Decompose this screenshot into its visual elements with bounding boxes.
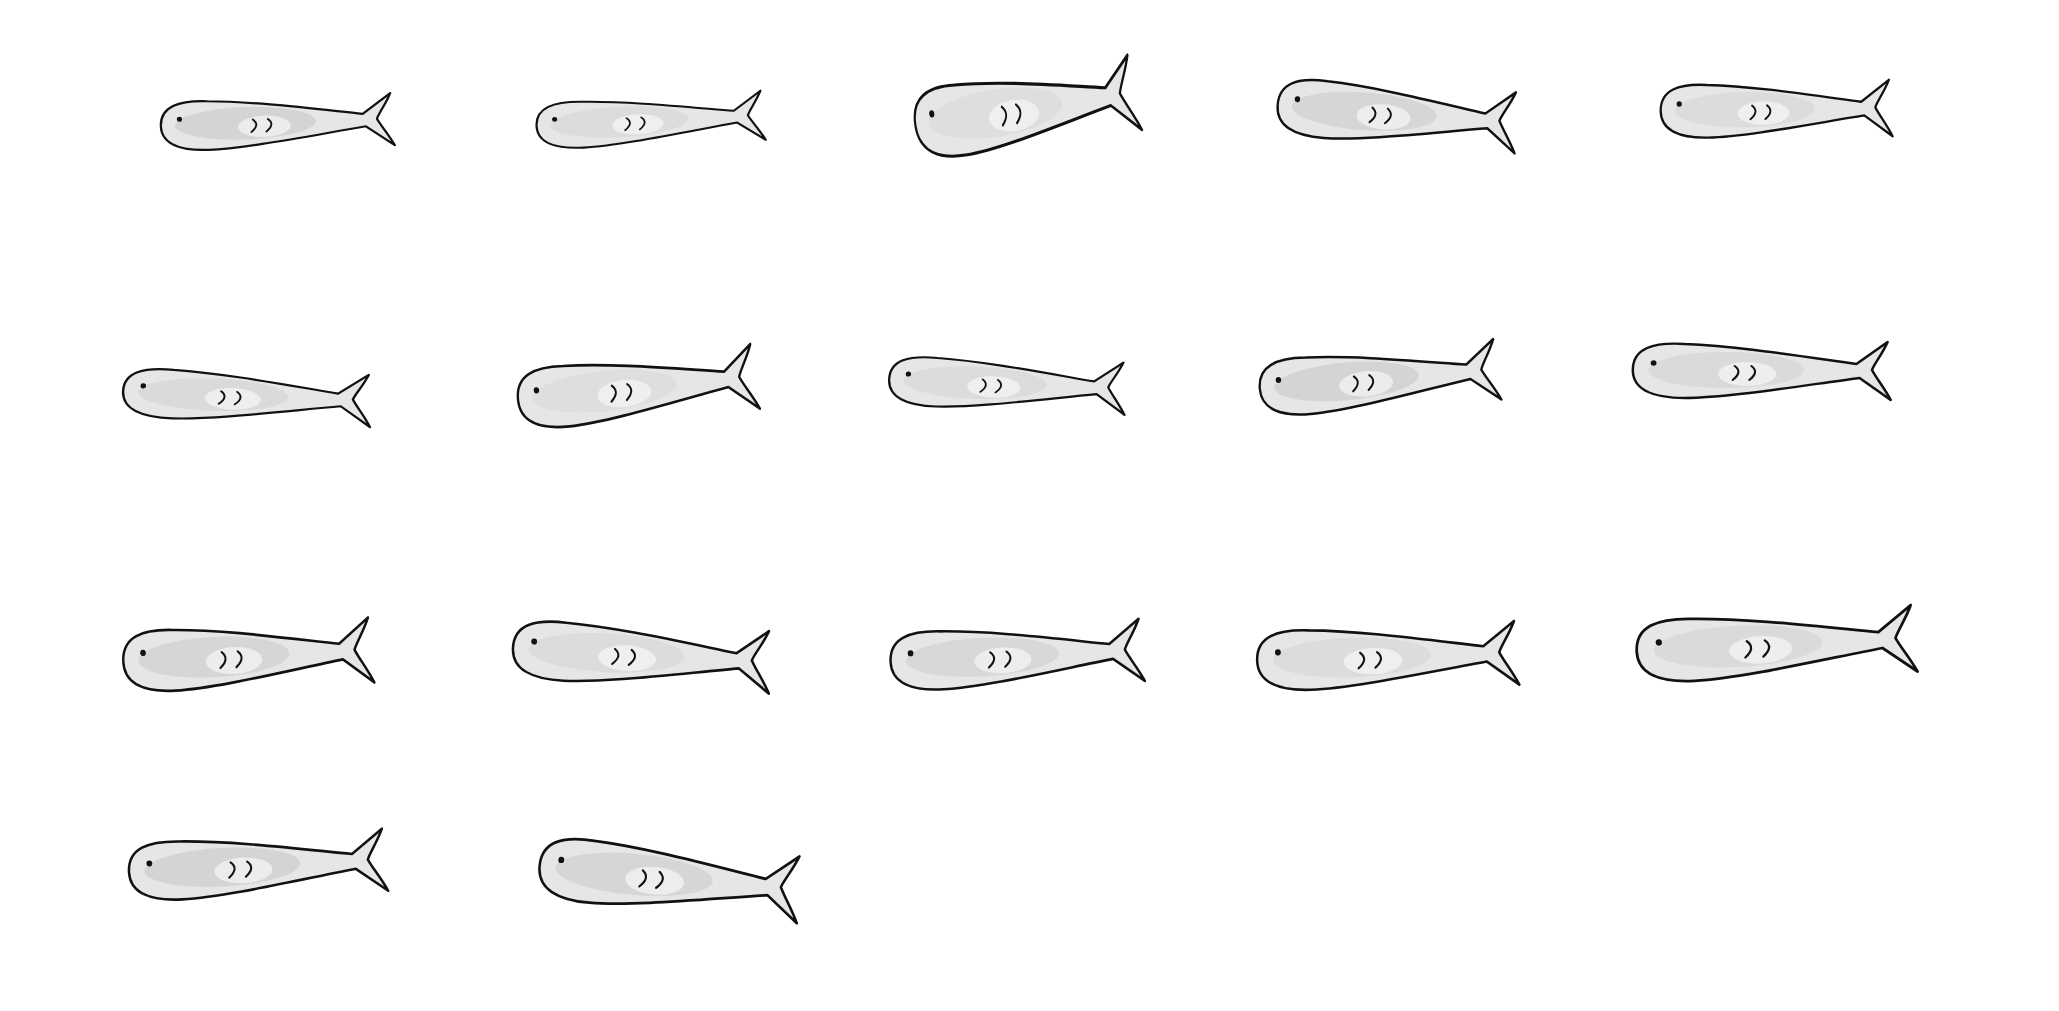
fish-drawing [1612,330,1924,410]
fish-eye-icon [1651,360,1657,366]
fish-drawing [1237,324,1533,433]
fish-drawing [101,602,407,708]
fish-drawing [141,81,425,163]
fish-drawing [1641,68,1922,151]
fish-drawing [494,327,792,447]
fish-drawing [106,814,422,916]
fish-drawing [515,818,838,937]
fish-drawing [1612,589,1954,699]
fish-drawing [889,35,1172,181]
fish-drawing [490,604,806,706]
fish-drawing [1235,607,1554,706]
fish-drawing [869,343,1157,425]
fish-drawing [868,604,1178,706]
fish-drawing [516,79,795,161]
fish-drawing [102,355,404,437]
fish-drawing [1255,62,1550,166]
